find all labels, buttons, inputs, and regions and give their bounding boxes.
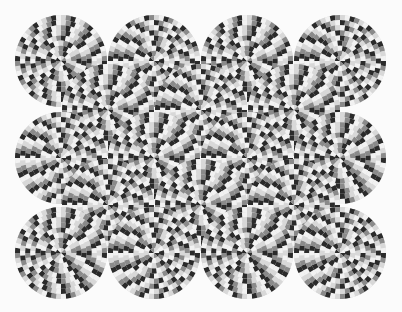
snake-disc: [201, 207, 293, 299]
rotating-snakes-pattern: [0, 0, 402, 312]
snake-disc: [15, 207, 107, 299]
illusion-image: [0, 0, 402, 312]
snake-disc: [294, 207, 386, 299]
snake-disc: [108, 207, 200, 299]
